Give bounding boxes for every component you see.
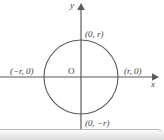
x-axis-label: x bbox=[151, 79, 155, 89]
page-bottom-edge-band bbox=[0, 129, 164, 140]
point-label-bottom: (0, −r) bbox=[85, 118, 110, 128]
y-axis-arrowhead bbox=[77, 3, 85, 10]
point-label-right: (r, 0) bbox=[124, 66, 142, 76]
circle-coordinate-diagram: y x O (0, r) (0, −r) (−r, 0) (r, 0) bbox=[0, 0, 164, 140]
point-label-top: (0, r) bbox=[85, 29, 104, 39]
y-axis-label: y bbox=[70, 0, 74, 10]
point-label-left: (−r, 0) bbox=[10, 66, 34, 76]
origin-label: O bbox=[68, 66, 75, 76]
